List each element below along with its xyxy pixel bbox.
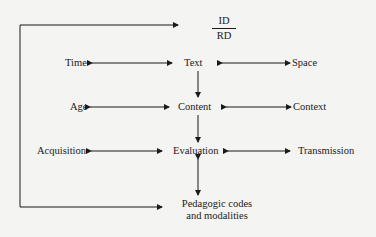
node-content: Content xyxy=(178,101,211,113)
id-rd-fraction: ID RD xyxy=(212,15,236,42)
node-space: Space xyxy=(292,57,317,69)
pedagogic-line-2: and modalities xyxy=(165,210,269,222)
node-evaluation: Evaluation xyxy=(173,145,219,157)
node-context: Context xyxy=(293,101,326,113)
node-time: Time xyxy=(65,57,87,69)
rd-label: RD xyxy=(212,30,236,42)
node-text: Text xyxy=(184,57,203,69)
node-age: Age xyxy=(70,101,88,113)
fraction-bar xyxy=(212,28,236,29)
node-pedagogic-codes: Pedagogic codes and modalities xyxy=(165,198,269,222)
node-acquisition: Acquisition xyxy=(37,145,86,157)
node-transmission: Transmission xyxy=(298,145,354,157)
pedagogic-line-1: Pedagogic codes xyxy=(165,198,269,210)
id-label: ID xyxy=(212,15,236,27)
